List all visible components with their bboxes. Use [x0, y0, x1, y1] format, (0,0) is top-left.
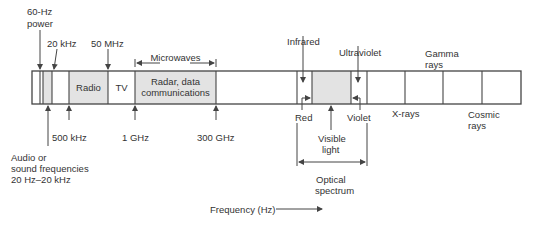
mhz50-label: 50 MHz	[91, 38, 124, 49]
xrays-label: X-rays	[392, 108, 419, 119]
audio-label-3: 20 Hz–20 kHz	[11, 174, 71, 185]
microwave-band-label-1: Radar, data	[135, 76, 216, 87]
ghz1-label: 1 GHz	[122, 132, 149, 143]
infrared-label: Infrared	[287, 36, 320, 47]
optical-label-1: Optical	[316, 174, 346, 185]
visible-label-1: Visible	[318, 133, 346, 144]
radio-label: Radio	[69, 82, 108, 93]
microwave-band-label-2: communications	[135, 87, 216, 98]
visible-label-2: light	[322, 144, 339, 155]
tv-label: TV	[108, 82, 135, 93]
gamma-label-2: rays	[425, 59, 443, 70]
ghz300-label: 300 GHz	[197, 132, 235, 143]
frequency-axis-label: Frequency (Hz)	[210, 204, 275, 215]
ultraviolet-label: Ultraviolet	[339, 47, 381, 58]
visible-band	[312, 71, 351, 104]
khz500-label: 500 kHz	[52, 132, 87, 143]
khz20-label: 20 kHz	[47, 38, 77, 49]
optical-label-2: spectrum	[315, 185, 354, 196]
gamma-label-1: Gamma	[425, 48, 459, 59]
cosmic-label-2: rays	[468, 120, 486, 131]
spectrum-diagram	[0, 0, 533, 226]
microwaves-label: Microwaves	[135, 52, 216, 63]
khz20-arrow	[54, 49, 57, 69]
cosmic-label-1: Cosmic	[468, 109, 500, 120]
audio-label-1: Audio or	[11, 152, 46, 163]
violet-label: Violet	[347, 112, 371, 123]
power-label-2: power	[27, 18, 53, 29]
power-label-1: 60-Hz	[27, 6, 52, 17]
audio-label-2: sound frequencies	[11, 163, 89, 174]
red-label: Red	[295, 112, 312, 123]
audio-band	[43, 71, 52, 104]
